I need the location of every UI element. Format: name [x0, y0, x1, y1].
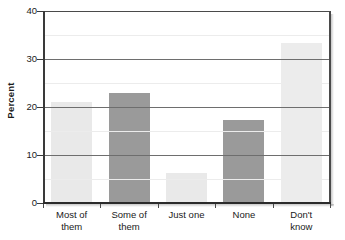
y-axis-tick	[37, 107, 43, 108]
gridline-minor	[43, 179, 331, 180]
y-axis-tick-label: 10	[7, 149, 37, 160]
gridline-minor	[43, 131, 331, 132]
x-axis-tick-label-line: them	[100, 221, 157, 233]
gridline-major	[43, 155, 331, 156]
gridline-major	[43, 59, 331, 60]
bar	[109, 93, 150, 203]
x-axis-tick-label-line: None	[215, 209, 272, 221]
bar	[51, 102, 92, 203]
x-axis-tick-label: Some ofthem	[100, 209, 157, 233]
x-axis-tick-label-line: Just one	[158, 209, 215, 221]
bar	[223, 120, 264, 203]
x-axis-tick	[330, 204, 331, 208]
x-axis-tick-label: Don'tknow	[273, 209, 330, 233]
gridline-minor	[43, 35, 331, 36]
x-axis-tick-label-line: know	[273, 221, 330, 233]
x-axis-tick	[43, 204, 44, 208]
frame-shadow-bottom	[46, 204, 334, 207]
x-axis-tick-label-line: them	[43, 221, 100, 233]
y-axis-tick-label: 0	[7, 197, 37, 208]
bar	[166, 173, 207, 203]
x-axis-tick-label: None	[215, 209, 272, 221]
y-axis-tick	[37, 11, 43, 12]
gridline-minor	[43, 83, 331, 84]
x-axis-tick-label-line: Most of	[43, 209, 100, 221]
x-axis-tick	[215, 204, 216, 208]
gridline-major	[43, 107, 331, 108]
x-axis-tick	[158, 204, 159, 208]
y-axis-tick	[37, 59, 43, 60]
x-axis-tick-label: Most ofthem	[43, 209, 100, 233]
x-axis-tick-label: Just one	[158, 209, 215, 221]
frame-shadow-right	[331, 14, 334, 206]
x-axis-tick-label-line: Don't	[273, 209, 330, 221]
plot-frame-top	[43, 11, 331, 12]
y-axis-line	[43, 11, 45, 204]
bar-chart: Percent 010203040 Most ofthemSome ofthem…	[0, 0, 345, 240]
x-axis-tick	[100, 204, 101, 208]
y-axis-tick-label: 40	[7, 5, 37, 16]
y-axis-tick	[37, 155, 43, 156]
x-axis-tick	[273, 204, 274, 208]
y-axis-tick-label: 20	[7, 101, 37, 112]
y-axis-tick-label: 30	[7, 53, 37, 64]
x-axis-tick-label-line: Some of	[100, 209, 157, 221]
